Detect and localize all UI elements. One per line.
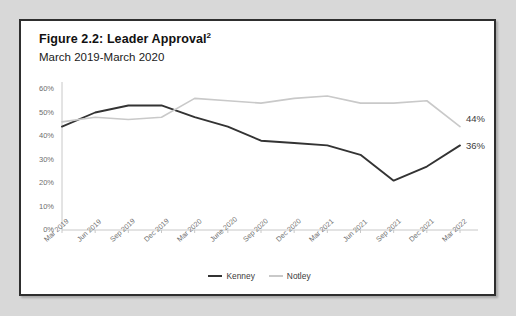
- y-axis-tick-label: 60%: [28, 84, 54, 93]
- legend-label: Kenney: [226, 271, 254, 281]
- figure-panel: Figure 2.2: Leader Approval2 March 2019-…: [19, 19, 496, 296]
- endpoint-label-kenney: 36%: [466, 140, 485, 151]
- line-chart-svg: [21, 21, 498, 298]
- legend-item-notley[interactable]: Notley: [269, 271, 311, 281]
- y-axis-tick-label: 50%: [28, 108, 54, 117]
- y-axis-tick-label: 20%: [28, 178, 54, 187]
- series-line-kenney: [62, 105, 460, 180]
- chart-legend: KenneyNotley: [21, 271, 498, 281]
- series-line-notley: [62, 96, 460, 127]
- legend-item-kenney[interactable]: Kenney: [208, 271, 254, 281]
- y-axis-tick-label: 10%: [28, 202, 54, 211]
- y-axis-tick-label: 40%: [28, 131, 54, 140]
- chart-plot-area: 0%10%20%30%40%50%60% Mar 2019Jun 2019Sep…: [21, 21, 498, 298]
- legend-swatch-kenney: [208, 275, 222, 277]
- endpoint-label-notley: 44%: [466, 113, 485, 124]
- legend-swatch-notley: [269, 275, 283, 277]
- legend-label: Notley: [287, 271, 311, 281]
- y-axis-tick-label: 30%: [28, 155, 54, 164]
